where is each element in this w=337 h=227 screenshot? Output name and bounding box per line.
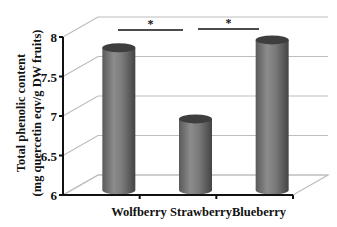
axes: 66.577.58WolfberryStrawberryBlueberry	[41, 30, 293, 219]
bars	[102, 35, 288, 194]
bar-strawberry	[179, 114, 212, 194]
x-category-label: Strawberry	[170, 205, 233, 219]
y-axis-title-line-1: Total phenolic content	[14, 53, 28, 172]
x-category-label: Blueberry	[232, 205, 287, 219]
significance-star: *	[148, 17, 154, 31]
bar-wolfberry	[102, 43, 135, 194]
y-axis-title-line-2: (mg quercetin eqv/g DW fruits)	[30, 30, 44, 197]
gridline	[63, 17, 328, 37]
y-axis-title: Total phenolic content (mg quercetin eqv…	[6, 28, 52, 198]
significance-annotations: **	[118, 16, 259, 31]
bar-blueberry	[256, 35, 289, 194]
x-category-label: Wolfberry	[111, 205, 167, 219]
significance-star: *	[226, 16, 232, 30]
